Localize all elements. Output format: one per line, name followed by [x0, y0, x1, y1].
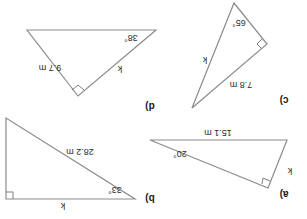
- triangle-d-angle-label: 38°: [124, 33, 138, 43]
- triangle-c-right-angle-marker: [257, 39, 262, 49]
- triangle-a-angle-label: 20°: [173, 149, 187, 159]
- triangle-a-part-label: a): [280, 189, 289, 200]
- triangle-b-angle-label: 33°: [108, 185, 122, 195]
- triangle-b: 28.2 m 33° k b): [6, 118, 155, 211]
- triangle-c-angle-label: 65°: [232, 18, 246, 28]
- triangle-d-unknown-label: k: [117, 64, 122, 74]
- triangle-d-part-label: d): [145, 101, 154, 112]
- triangle-c-unknown-label: k: [202, 55, 207, 65]
- triangle-b-side-label: 28.2 m: [66, 147, 94, 157]
- triangle-b-right-angle-marker: [6, 192, 13, 199]
- triangle-d-side-label: 9.7 m: [39, 63, 62, 73]
- triangle-a: 15.1 m 20° k a): [150, 128, 292, 200]
- triangle-a-side-label: 15.1 m: [204, 128, 232, 138]
- triangle-d-right-angle-marker: [72, 85, 84, 90]
- triangle-c-side-label: 7.8 m: [230, 80, 253, 90]
- triangle-b-part-label: b): [145, 193, 154, 204]
- trig-triangles-diagram: 9.7 m 38° k d) 7.8 m 65° k c) 28.2 m 33°…: [0, 0, 307, 219]
- triangle-b-unknown-label: k: [60, 201, 65, 211]
- triangle-d: 9.7 m 38° k d): [27, 30, 156, 112]
- triangle-c-part-label: c): [280, 95, 289, 106]
- triangle-a-right-angle-marker: [262, 178, 270, 184]
- triangle-a-unknown-label: k: [287, 166, 292, 176]
- triangle-a-outline: [150, 140, 287, 188]
- triangle-c: 7.8 m 65° k c): [192, 3, 288, 108]
